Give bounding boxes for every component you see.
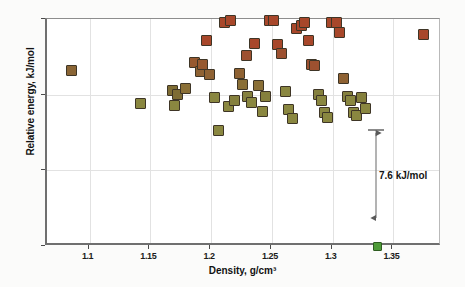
data-marker bbox=[225, 15, 236, 26]
data-marker-global-minimum bbox=[373, 242, 382, 251]
data-marker bbox=[234, 68, 245, 79]
y-tick-mark-1 bbox=[41, 169, 45, 170]
data-marker bbox=[331, 17, 342, 28]
x-tick-mark-0 bbox=[88, 245, 89, 249]
data-marker bbox=[309, 60, 320, 71]
y-tick-mark-3 bbox=[41, 18, 45, 19]
data-marker bbox=[418, 29, 429, 40]
data-marker bbox=[237, 79, 248, 90]
x-tick-label-0: 1.1 bbox=[68, 251, 108, 261]
data-marker bbox=[253, 80, 264, 91]
data-marker bbox=[345, 95, 356, 106]
scatter-plot-figure: 051015 1.11.151.21.251.31.35 Relative en… bbox=[0, 0, 465, 287]
gridline-x-1.1 bbox=[90, 19, 91, 243]
x-tick-label-1: 1.15 bbox=[128, 251, 168, 261]
data-marker bbox=[180, 83, 191, 94]
data-marker bbox=[260, 91, 271, 102]
data-marker bbox=[229, 95, 240, 106]
data-marker bbox=[356, 92, 367, 103]
data-marker bbox=[276, 48, 287, 59]
data-marker bbox=[241, 50, 252, 61]
gridline-x-1.2 bbox=[211, 19, 212, 243]
y-tick-mark-2 bbox=[41, 94, 45, 95]
x-tick-mark-4 bbox=[331, 245, 332, 249]
data-marker bbox=[360, 103, 371, 114]
y-axis-title: Relative energy, kJ/mol bbox=[25, 12, 36, 192]
data-marker bbox=[135, 98, 146, 109]
data-marker bbox=[338, 73, 349, 84]
gridline-x-1.3 bbox=[333, 19, 334, 243]
data-marker bbox=[257, 106, 268, 117]
x-axis-title: Density, g/cm³ bbox=[45, 265, 440, 276]
gridline-x-1.25 bbox=[272, 19, 273, 243]
data-marker bbox=[66, 65, 77, 76]
data-marker bbox=[334, 27, 345, 38]
data-marker bbox=[169, 100, 180, 111]
data-marker bbox=[209, 92, 220, 103]
data-marker bbox=[287, 113, 298, 124]
x-tick-label-4: 1.3 bbox=[311, 251, 351, 261]
gridline-x-1.15 bbox=[150, 19, 151, 243]
data-marker bbox=[268, 15, 279, 26]
data-marker bbox=[246, 97, 257, 108]
x-tick-label-5: 1.35 bbox=[371, 251, 411, 261]
data-marker bbox=[280, 86, 291, 97]
x-tick-mark-2 bbox=[209, 245, 210, 249]
x-tick-mark-5 bbox=[391, 245, 392, 249]
plot-area bbox=[45, 18, 440, 245]
x-tick-label-3: 1.25 bbox=[250, 251, 290, 261]
annotation-label: 7.6 kJ/mol bbox=[379, 170, 427, 181]
data-marker bbox=[204, 69, 215, 80]
x-tick-mark-3 bbox=[270, 245, 271, 249]
data-marker bbox=[197, 59, 208, 70]
data-marker bbox=[303, 35, 314, 46]
data-marker bbox=[299, 17, 310, 28]
y-tick-mark-0 bbox=[41, 245, 45, 246]
x-tick-mark-1 bbox=[148, 245, 149, 249]
data-marker bbox=[316, 95, 327, 106]
data-marker bbox=[249, 38, 260, 49]
gridline-x-1.35 bbox=[393, 19, 394, 243]
data-marker bbox=[201, 35, 212, 46]
data-marker bbox=[322, 112, 333, 123]
x-tick-label-2: 1.2 bbox=[189, 251, 229, 261]
data-marker bbox=[213, 125, 224, 136]
